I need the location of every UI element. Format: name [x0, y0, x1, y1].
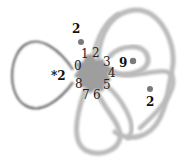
- puncture-label-top: 2: [72, 22, 80, 36]
- disk-label-1: 1: [81, 47, 89, 61]
- disk-label-6: 6: [93, 88, 101, 102]
- puncture-right: [147, 86, 153, 92]
- puncture-label-right: 2: [146, 95, 154, 109]
- inner-band-loop: [110, 47, 148, 74]
- puncture-label-inner: 9: [119, 56, 127, 70]
- puncture-top: [78, 39, 84, 45]
- disk-label-8: 8: [75, 77, 83, 91]
- left-loop-label: *2: [51, 69, 66, 83]
- braid-disk-diagram: 2 9 2 *2 0 1 2 3 4 5 6 7 8: [0, 0, 185, 161]
- disk-label-2: 2: [92, 46, 100, 60]
- disk-label-0: 0: [74, 59, 82, 73]
- puncture-inner: [130, 58, 136, 64]
- disk-label-7: 7: [82, 88, 90, 102]
- disk-label-5: 5: [103, 78, 111, 92]
